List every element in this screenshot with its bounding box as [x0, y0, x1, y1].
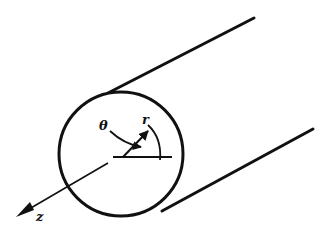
cylinder-upper-edge	[108, 18, 254, 93]
cylinder-lower-edge	[162, 129, 313, 211]
r-label: r	[142, 112, 150, 127]
z-label: z	[35, 209, 44, 224]
cylinder-diagram: θ r z	[0, 0, 333, 244]
cylinder-cross-section	[59, 92, 183, 216]
z-axis-arrowhead	[16, 202, 34, 217]
theta-label: θ	[99, 118, 108, 133]
